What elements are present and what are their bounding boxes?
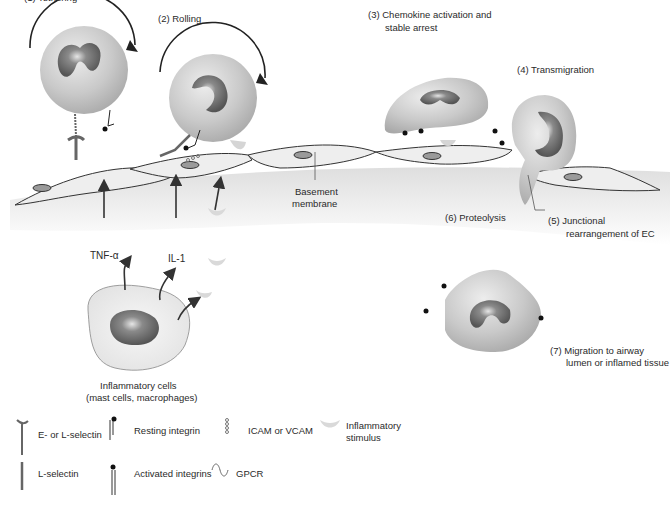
resting-integrin-icon [110,420,113,440]
legend-inflammatory-stimulus-line2: stimulus [346,432,381,444]
inflammatory-stimulus-icon [320,420,340,428]
step5-label-line1: (5) Junctional [548,215,605,227]
gpcr-icon [212,464,228,476]
inflammatory-cells-label-line1: Inflammatory cells [100,380,177,392]
basement-membrane-label-line2: membrane [292,198,337,210]
leukocyte-tethering [30,0,138,160]
step4-label: (4) Transmigration [517,64,594,76]
step3-label-line2: stable arrest [385,22,437,34]
inflammatory-cell [88,260,196,370]
inflammatory-cells-label-line2: (mast cells, macrophages) [86,392,197,404]
step1-label: (1) Tethering [24,0,77,4]
tnf-alpha-label: TNF-α [90,250,119,262]
step7-label-line2: lumen or inflamed tissue [566,357,669,369]
step5-label-line2: rearrangement of EC [566,228,655,240]
e-l-selectin-icon [17,420,28,455]
legend-activated-integrins: Activated integrins [134,468,212,480]
leukocyte-arrest [385,78,488,146]
legend-inflammatory-stimulus-line1: Inflammatory [346,420,401,432]
basement-membrane-label-line1: Basement [295,186,338,198]
leukocyte-migrating [424,270,544,352]
legend-icam-vcam: ICAM or VCAM [248,425,313,437]
legend-e-l-selectin: E- or L-selectin [38,429,102,441]
activated-integrins-icon [112,470,115,495]
step2-label: (2) Rolling [158,13,201,25]
icam-vcam-icon [226,419,229,434]
leukocyte-rolling [160,22,268,161]
step6-label: (6) Proteolysis [445,212,506,224]
legend-resting-integrin: Resting integrin [134,425,200,437]
il1-label: IL-1 [168,253,185,265]
step3-label-line1: (3) Chemokine activation and [368,9,492,21]
legend-l-selectin: L-selectin [38,468,79,480]
step7-label-line1: (7) Migration to airway [550,345,644,357]
legend-gpcr: GPCR [236,468,263,480]
